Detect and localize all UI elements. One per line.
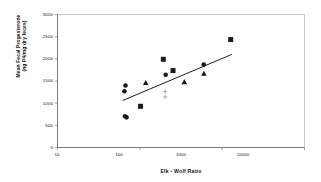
- data-point-circle: [122, 89, 127, 94]
- data-point-triangle: [182, 79, 188, 84]
- data-point-square: [228, 37, 233, 42]
- data-markers: [122, 37, 233, 120]
- data-point-plus: [163, 95, 167, 99]
- data-point-circle: [124, 115, 129, 120]
- chart-figure: 3000 2500 2000 1500 1000 500 0 10 100 10…: [0, 0, 321, 182]
- data-point-square: [161, 57, 166, 62]
- data-point-triangle: [143, 80, 149, 85]
- chart-data-layer: [0, 0, 321, 182]
- data-point-circle: [163, 72, 168, 77]
- axis-ticks: [55, 15, 305, 151]
- trendline: [123, 54, 232, 100]
- data-point-square: [171, 68, 176, 73]
- data-point-square: [138, 104, 143, 109]
- data-point-plus: [163, 89, 167, 93]
- data-point-circle: [201, 62, 206, 67]
- data-point-circle: [123, 83, 128, 88]
- data-point-triangle: [201, 71, 207, 76]
